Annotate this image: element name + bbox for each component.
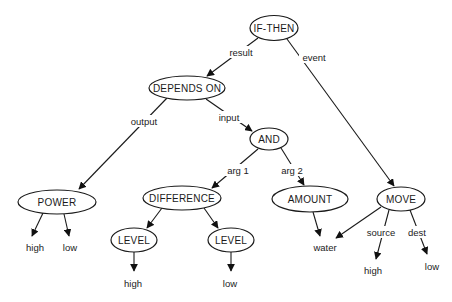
edge-label: output [131, 116, 158, 127]
edge-label: arg 1 [227, 165, 249, 176]
edge-label: event [302, 52, 326, 63]
edge-depends_on-to-power [79, 98, 167, 189]
node-label: DEPENDS ON [153, 83, 221, 94]
node-label: POWER [38, 197, 77, 208]
edge-power-to-power_low [64, 214, 69, 236]
edge-label: source [367, 227, 396, 238]
edge-label: input [219, 112, 240, 123]
leaf-power-high: high [26, 242, 44, 253]
edge-power-to-power_high [32, 213, 43, 236]
arrow-icon [147, 208, 162, 228]
node-depends-on: DEPENDS ON [149, 76, 225, 100]
nodes-layer: IF-THENDEPENDS ONANDPOWERDIFFERENCEAMOUN… [18, 16, 425, 253]
arrow-icon [313, 212, 320, 236]
node-label: AMOUNT [288, 194, 333, 205]
edge-difference-to-level_1 [147, 208, 162, 228]
leaf-move-high: high [364, 265, 382, 276]
arrow-icon [79, 98, 167, 189]
node-amount: AMOUNT [272, 186, 348, 212]
leaf-power-low: low [63, 242, 77, 253]
node-if-then: IF-THEN [250, 16, 298, 41]
node-label: LEVEL [215, 235, 247, 246]
edge-label: result [229, 47, 253, 58]
leaf-level1-high: high [124, 278, 142, 289]
node-level-1: LEVEL [111, 228, 157, 252]
node-label: DIFFERENCE [149, 193, 215, 204]
leaf-water: water [312, 242, 336, 253]
node-difference: DIFFERENCE [143, 186, 221, 210]
node-and: AND [250, 128, 288, 150]
node-label: MOVE [386, 194, 416, 205]
node-label: LEVEL [118, 235, 150, 246]
edge-label: dest [408, 227, 426, 238]
semantic-network-diagram: resulteventoutputinputarg 1arg 2sourcede… [0, 0, 452, 302]
node-label: IF-THEN [254, 23, 295, 34]
arrow-icon [64, 214, 69, 236]
edge-difference-to-level_2 [204, 208, 218, 228]
node-level-2: LEVEL [208, 228, 254, 252]
node-label: AND [258, 134, 280, 145]
node-power: POWER [18, 190, 96, 214]
leaf-level2-low: low [223, 278, 237, 289]
leaf-move-low: low [425, 261, 439, 272]
node-move: MOVE [377, 187, 425, 211]
edge-label: arg 2 [281, 165, 303, 176]
arrow-icon [32, 213, 43, 236]
edge-amount-to-water [313, 212, 320, 236]
arrow-icon [204, 208, 218, 228]
